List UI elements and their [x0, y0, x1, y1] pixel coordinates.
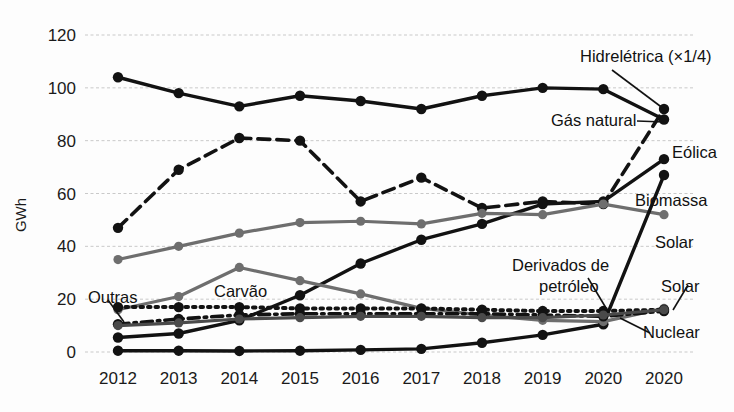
leader-line	[637, 121, 664, 122]
x-tick-label: 2019	[524, 369, 562, 388]
series-annotation: Nuclear	[643, 323, 700, 341]
data-point	[477, 313, 486, 322]
data-point	[113, 321, 122, 330]
data-point	[417, 312, 426, 321]
data-point	[417, 219, 426, 228]
data-point	[173, 165, 183, 175]
data-point	[538, 210, 547, 219]
y-tick-label: 40	[57, 237, 76, 256]
data-point	[477, 338, 487, 348]
data-point	[295, 345, 305, 355]
data-point	[355, 258, 365, 268]
data-point	[356, 217, 365, 226]
x-tick-label: 2018	[463, 369, 501, 388]
data-point	[295, 91, 305, 101]
data-point	[113, 255, 122, 264]
data-point	[173, 302, 183, 312]
data-point	[659, 170, 669, 180]
series-annotation: Gás natural	[551, 111, 636, 129]
data-point	[355, 345, 365, 355]
series-annotation: Carvão	[214, 282, 267, 300]
data-point	[234, 133, 244, 143]
y-axis-title: GWh	[12, 198, 29, 232]
y-tick-label: 0	[67, 343, 76, 362]
data-point	[295, 276, 304, 285]
data-point	[355, 96, 365, 106]
series-annotation: Hidrelétrica (×1/4)	[580, 47, 712, 65]
data-point	[659, 154, 669, 164]
data-point	[599, 199, 608, 208]
series-annotation: Biomassa	[635, 191, 708, 209]
data-point	[174, 242, 183, 251]
x-tick-label: 2012	[99, 369, 137, 388]
data-point	[659, 305, 668, 314]
data-point	[235, 229, 244, 238]
data-point	[174, 292, 183, 301]
data-point	[356, 312, 365, 321]
data-point	[416, 172, 426, 182]
chart-page: 120100806040200 201220132014201520162017…	[0, 0, 734, 412]
data-point	[113, 223, 123, 233]
data-point	[113, 72, 123, 82]
data-point	[356, 289, 365, 298]
x-tick-label: 2020	[645, 369, 683, 388]
data-point	[416, 104, 426, 114]
y-tick-label: 60	[57, 185, 76, 204]
y-tick-label: 100	[48, 79, 76, 98]
data-point	[173, 328, 183, 338]
data-point	[598, 84, 608, 94]
data-point	[235, 314, 244, 323]
data-point	[174, 318, 183, 327]
data-point	[477, 91, 487, 101]
data-point	[234, 346, 244, 356]
series-annotation: petróleo	[539, 277, 599, 295]
data-point	[416, 235, 426, 245]
data-point	[295, 313, 304, 322]
x-tick-label: 2016	[342, 369, 380, 388]
y-tick-label: 120	[48, 26, 76, 45]
x-tick-label: 2017	[402, 369, 440, 388]
series-annotation: Outras	[88, 288, 138, 306]
data-point	[295, 290, 305, 300]
data-point	[537, 83, 547, 93]
data-point	[173, 345, 183, 355]
data-point	[416, 344, 426, 354]
series-annotation: Eólica	[672, 143, 718, 161]
y-tick-label: 80	[57, 132, 76, 151]
series-annotation: Solar	[661, 277, 700, 295]
series-annotation: Derivados de	[512, 256, 609, 274]
data-point	[113, 332, 123, 342]
data-point	[235, 263, 244, 272]
data-point	[113, 345, 123, 355]
data-point	[537, 199, 547, 209]
data-point	[295, 135, 305, 145]
data-point	[295, 218, 304, 227]
data-point	[538, 313, 547, 322]
data-point	[537, 330, 547, 340]
data-point	[234, 101, 244, 111]
data-point	[659, 210, 668, 219]
series-annotation: Solar	[655, 233, 694, 251]
data-point	[477, 219, 487, 229]
x-tick-label: 2014	[220, 369, 258, 388]
x-tick-label: 2020	[584, 369, 622, 388]
data-point	[599, 310, 608, 319]
y-tick-label: 20	[57, 290, 76, 309]
data-point	[173, 88, 183, 98]
line-chart: 120100806040200 201220132014201520162017…	[0, 0, 734, 412]
data-point	[477, 209, 486, 218]
data-point	[355, 196, 365, 206]
x-tick-label: 2013	[160, 369, 198, 388]
x-tick-label: 2015	[281, 369, 319, 388]
